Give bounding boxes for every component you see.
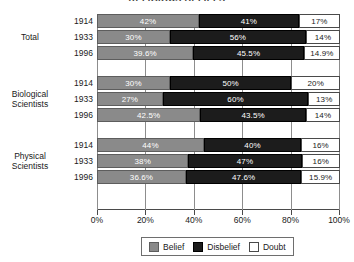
bar-row: 42%41%17% [97,14,340,28]
year-label: 1996 [61,108,93,122]
bar-segment-disbelief: 56% [170,30,306,44]
group-label-line: Scientists [2,161,58,171]
stacked-bar-chart: RELIGIOUS BELIEFS 42%41%17%30%56%14%39.6… [0,0,354,262]
bar-segment-doubt: 14% [306,30,340,44]
legend-swatch-disbelief [193,242,203,252]
bar-segment-belief: 30% [97,30,170,44]
bar-segment-doubt: 13% [308,92,340,106]
bar-segment-disbelief: 47% [188,154,301,168]
legend-item[interactable]: Disbelief [193,242,240,252]
bar-segment-disbelief: 41% [199,14,299,28]
bar-segment-disbelief: 47.6% [186,170,302,184]
bar-segment-doubt: 14.9% [304,46,340,60]
legend-label: Belief [163,242,184,252]
group-label: PhysicalScientists [2,151,58,171]
bar-segment-disbelief: 45.5% [193,46,304,60]
bar-segment-belief: 30% [97,76,170,90]
year-label: 1933 [61,92,93,106]
bar-row: 38%47%16% [97,154,340,168]
bar-segment-belief: 36.6% [97,170,186,184]
group-label: Total [2,32,58,42]
year-label: 1996 [61,170,93,184]
bar-segment-disbelief: 40% [204,138,301,152]
year-label: 1914 [61,14,93,28]
bar-row: 30%50%20% [97,76,340,90]
bar-segment-belief: 38% [97,154,188,168]
bar-segment-belief: 42.5% [97,108,200,122]
bar-row: 36.6%47.6%15.9% [97,170,340,184]
legend-label: Doubt [263,242,286,252]
bar-row: 27%60%13% [97,92,340,106]
x-tick-label: 40% [174,215,214,225]
year-label: 1914 [61,76,93,90]
legend-swatch-belief [149,242,159,252]
group-label-line: Biological [2,89,58,99]
group-label-line: Scientists [2,99,58,109]
bar-segment-belief: 27% [97,92,163,106]
bar-row: 30%56%14% [97,30,340,44]
group-label-line: Physical [2,151,58,161]
bar-segment-disbelief: 60% [163,92,309,106]
chart-title: RELIGIOUS BELIEFS [0,0,354,1]
group-label-line: Total [2,32,58,42]
legend-swatch-doubt [249,242,259,252]
bar-segment-belief: 42% [97,14,199,28]
x-tick-label: 0% [77,215,117,225]
bar-segment-doubt: 16% [301,138,340,152]
bar-segment-disbelief: 50% [170,76,292,90]
year-label: 1914 [61,138,93,152]
x-tick-label: 100% [319,215,354,225]
plot-area: 42%41%17%30%56%14%39.6%45.5%14.9%30%50%2… [97,14,340,210]
year-label: 1933 [61,30,93,44]
x-tick-label: 20% [125,215,165,225]
bar-segment-disbelief: 43.5% [200,108,306,122]
x-tick-label: 80% [271,215,311,225]
bar-segment-belief: 39.6% [97,46,193,60]
chart-legend: BeliefDisbeliefDoubt [141,237,294,256]
bar-segment-doubt: 20% [291,76,340,90]
year-label: 1933 [61,154,93,168]
legend-item[interactable]: Doubt [249,242,286,252]
bar-row: 42.5%43.5%14% [97,108,340,122]
bar-segment-doubt: 17% [299,14,340,28]
group-label: BiologicalScientists [2,89,58,109]
bar-segment-belief: 44% [97,138,204,152]
bar-row: 39.6%45.5%14.9% [97,46,340,60]
legend-label: Disbelief [207,242,240,252]
bar-row: 44%40%16% [97,138,340,152]
year-label: 1996 [61,46,93,60]
x-tick-label: 60% [222,215,262,225]
legend-item[interactable]: Belief [149,242,184,252]
bar-segment-doubt: 15.9% [301,170,340,184]
bar-segment-doubt: 14% [306,108,340,122]
bar-segment-doubt: 16% [302,154,341,168]
